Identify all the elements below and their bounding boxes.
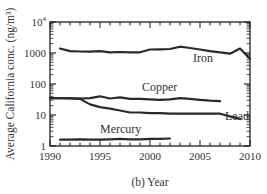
chart-container: 199019952000200520101101001000104 IronCo… (0, 0, 267, 194)
x-axis-title: (b) Year (131, 176, 168, 189)
series-labels: IronCopperLeadMercury (100, 51, 249, 136)
x-tick-label: 1995 (89, 150, 112, 162)
y-tick-label: 1000 (24, 47, 47, 59)
x-tick-label: 2010 (239, 150, 262, 162)
series-label-mercury: Mercury (100, 122, 141, 136)
line-chart: 199019952000200520101101001000104 IronCo… (0, 0, 267, 194)
series-line-iron (60, 47, 250, 59)
x-tick-label: 2000 (139, 150, 162, 162)
series-label-lead: Lead (225, 109, 249, 123)
y-tick-label: 10 (35, 109, 47, 121)
y-tick-label: 104 (32, 15, 47, 28)
y-tick-label: 100 (30, 78, 47, 90)
x-tick-label: 2005 (189, 150, 212, 162)
y-tick-exponent: 4 (43, 15, 47, 23)
y-axis-title: Average California conc. (ng/m³) (4, 8, 17, 161)
series-label-iron: Iron (193, 51, 213, 65)
series-line-mercury (60, 139, 170, 140)
series-label-copper: Copper (142, 80, 177, 94)
y-tick-label: 1 (41, 140, 47, 152)
